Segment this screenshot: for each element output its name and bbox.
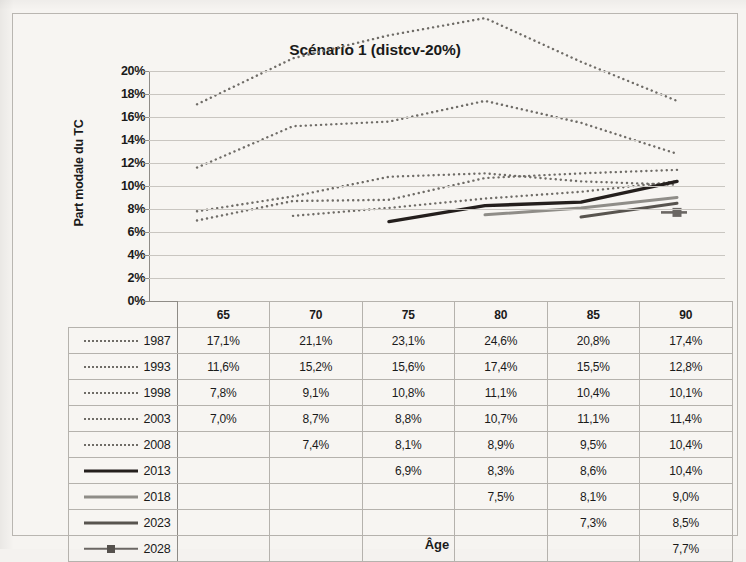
- table-cell: 10,7%: [455, 406, 548, 432]
- table-cell: [455, 510, 548, 536]
- table-cell: 11,6%: [177, 354, 270, 380]
- table-cell: 9,5%: [547, 432, 640, 458]
- table-row: 20187,5%8,1%9,0%: [69, 484, 733, 510]
- solid-mid-line-swatch: [84, 518, 138, 528]
- table-cell: [270, 510, 363, 536]
- data-table-wrapper: 657075808590 198717,1%21,1%23,1%24,6%20,…: [68, 301, 725, 562]
- table-cell: 17,4%: [640, 328, 733, 354]
- legend-label: 1998: [143, 386, 170, 400]
- table-row: 198717,1%21,1%23,1%24,6%20,8%17,4%: [69, 328, 733, 354]
- y-axis-tick: 10%: [91, 179, 145, 193]
- legend-label: 2003: [143, 412, 170, 426]
- table-cell: [177, 432, 270, 458]
- y-axis-tick: 14%: [91, 133, 145, 147]
- table-cell: 8,5%: [640, 510, 733, 536]
- y-axis-tick: 2%: [91, 271, 145, 285]
- legend-label: 1987: [143, 334, 170, 348]
- y-axis-tick: 8%: [91, 202, 145, 216]
- table-cell: 8,3%: [455, 458, 548, 484]
- dotted-line-swatch: [84, 336, 138, 346]
- table-cell: 8,1%: [547, 484, 640, 510]
- gridline: [149, 163, 725, 164]
- y-axis-tickmark: [144, 117, 149, 118]
- legend-entry-2008[interactable]: 2008: [69, 432, 178, 458]
- x-axis-label: Âge: [149, 537, 725, 552]
- table-cell: 23,1%: [362, 328, 455, 354]
- table-cell: [177, 458, 270, 484]
- table-cell: 10,8%: [362, 380, 455, 406]
- y-axis-tick-labels: 20%18%16%14%12%10%8%6%4%2%0%: [91, 64, 145, 308]
- solid-marker-line-swatch: [84, 544, 138, 554]
- y-axis-tickmark: [144, 232, 149, 233]
- table-cell: 7,4%: [270, 432, 363, 458]
- y-axis-tick: 18%: [91, 87, 145, 101]
- y-axis-tick: 16%: [91, 110, 145, 124]
- series-line-1987: [197, 18, 677, 104]
- y-axis-tickmark: [144, 278, 149, 279]
- legend-entry-2003[interactable]: 2003: [69, 406, 178, 432]
- y-axis-tickmark: [144, 140, 149, 141]
- table-cell: 8,6%: [547, 458, 640, 484]
- printed-frame: Scénario 1 (distcv-20%) Part modale du T…: [12, 13, 738, 536]
- table-cell: 8,7%: [270, 406, 363, 432]
- table-row: 20237,3%8,5%: [69, 510, 733, 536]
- gridline: [149, 278, 725, 279]
- table-row: 20136,9%8,3%8,6%10,4%: [69, 458, 733, 484]
- table-cell: 8,8%: [362, 406, 455, 432]
- gridline: [149, 255, 725, 256]
- table-cell: 15,2%: [270, 354, 363, 380]
- table-row: 20087,4%8,1%8,9%9,5%10,4%: [69, 432, 733, 458]
- solid-dark-line-swatch: [84, 466, 138, 476]
- table-cell: 12,8%: [640, 354, 733, 380]
- gridline: [149, 140, 725, 141]
- y-axis-tickmark: [144, 94, 149, 95]
- table-corner-cell: [69, 302, 178, 328]
- y-axis-label: Part modale du TC: [72, 83, 86, 263]
- table-cell: 17,1%: [177, 328, 270, 354]
- table-cell: 10,4%: [640, 432, 733, 458]
- table-cell: 11,1%: [455, 380, 548, 406]
- legend-entry-1987[interactable]: 1987: [69, 328, 178, 354]
- table-col-header-80: 80: [455, 302, 548, 328]
- solid-light-line-swatch: [84, 492, 138, 502]
- series-line-1993: [197, 101, 677, 168]
- gridline: [149, 209, 725, 210]
- gridline: [149, 186, 725, 187]
- dotted-line-swatch: [84, 388, 138, 398]
- table-cell: 17,4%: [455, 354, 548, 380]
- table-cell: [362, 510, 455, 536]
- table-body: 198717,1%21,1%23,1%24,6%20,8%17,4%199311…: [69, 328, 733, 562]
- legend-entry-2013[interactable]: 2013: [69, 458, 178, 484]
- table-col-header-85: 85: [547, 302, 640, 328]
- table-row: 20037,0%8,7%8,8%10,7%11,1%11,4%: [69, 406, 733, 432]
- y-axis-tick: 20%: [91, 64, 145, 78]
- table-row: 19987,8%9,1%10,8%11,1%10,4%10,1%: [69, 380, 733, 406]
- legend-entry-2023[interactable]: 2023: [69, 510, 178, 536]
- table-cell: 20,8%: [547, 328, 640, 354]
- legend-entry-1998[interactable]: 1998: [69, 380, 178, 406]
- table-cell: 24,6%: [455, 328, 548, 354]
- table-row: 199311,6%15,2%15,6%17,4%15,5%12,8%: [69, 354, 733, 380]
- table-cell: 11,4%: [640, 406, 733, 432]
- table-cell: 11,1%: [547, 406, 640, 432]
- gridline: [149, 71, 725, 72]
- table-cell: 7,0%: [177, 406, 270, 432]
- table-cell: 8,1%: [362, 432, 455, 458]
- legend-entry-1993[interactable]: 1993: [69, 354, 178, 380]
- table-col-header-70: 70: [270, 302, 363, 328]
- dotted-line-swatch: [84, 362, 138, 372]
- table-cell: 9,1%: [270, 380, 363, 406]
- table-cell: 7,5%: [455, 484, 548, 510]
- dotted-line-swatch: [84, 440, 138, 450]
- table-cell: 15,6%: [362, 354, 455, 380]
- table-header-row: 657075808590: [69, 302, 733, 328]
- table-cell: [177, 510, 270, 536]
- legend-entry-2018[interactable]: 2018: [69, 484, 178, 510]
- table-cell: [177, 484, 270, 510]
- y-axis-tickmark: [144, 163, 149, 164]
- table-cell: 7,3%: [547, 510, 640, 536]
- y-axis-tickmark: [144, 255, 149, 256]
- y-axis-tickmark: [144, 71, 149, 72]
- gridline: [149, 232, 725, 233]
